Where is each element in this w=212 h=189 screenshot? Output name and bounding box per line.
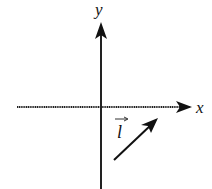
x-axis-label: x — [195, 98, 204, 117]
x-axis: x — [17, 98, 204, 117]
coordinate-diagram: x y l — [0, 0, 212, 189]
vector-l: l — [114, 117, 158, 160]
y-axis-label: y — [93, 0, 103, 19]
y-axis: y — [93, 0, 107, 189]
vector-label: l — [117, 122, 122, 142]
